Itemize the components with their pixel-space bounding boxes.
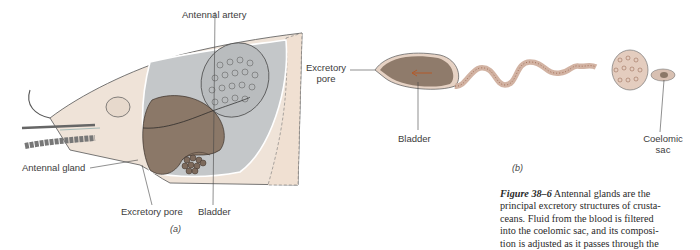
label-excretory-pore-a: Excretory pore: [121, 206, 183, 217]
label-coelomic-sac-line2: sac: [638, 144, 688, 155]
caption-line-4: into the coelomic sac, and its composi-: [500, 225, 659, 236]
label-coelomic-sac: Coelomic sac: [638, 133, 688, 155]
figure-number: Figure 38–6: [500, 188, 552, 199]
caption-line-1: Antennal glands are the: [552, 188, 650, 199]
label-excretory-pore-b: Excretory pore: [306, 62, 346, 84]
figure-caption: Figure 38–6 Antennal glands are the prin…: [500, 188, 700, 250]
antennal-gland-schematic: [350, 50, 675, 132]
label-bladder-b: Bladder: [398, 133, 431, 144]
label-excretory-pore-line2: pore: [306, 73, 346, 84]
label-bladder-a: Bladder: [198, 206, 231, 217]
crustacean-head-illustration: [22, 12, 302, 205]
label-antennal-artery: Antennal artery: [182, 9, 246, 20]
caption-line-2: principal excretory structures of crusta…: [500, 200, 661, 211]
caption-line-5: tion is adjusted as it passes through th…: [500, 238, 659, 249]
panel-b-letter: (b): [512, 163, 523, 173]
label-excretory-pore-line1: Excretory: [306, 62, 346, 73]
label-coelomic-sac-line1: Coelomic: [638, 133, 688, 144]
caption-line-3: ceans. Fluid from the blood is filtered: [500, 213, 654, 224]
panel-a-letter: (a): [170, 224, 181, 234]
label-antennal-gland: Antennal gland: [22, 162, 85, 173]
